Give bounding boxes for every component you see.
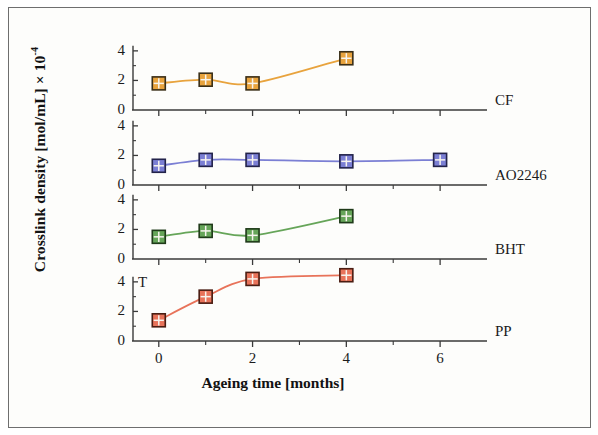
- y-tick-label: 0: [103, 251, 125, 266]
- y-axis-title-exponent: -4: [29, 47, 40, 56]
- x-tick-label: 6: [428, 351, 452, 366]
- y-tick-label: 2: [103, 303, 125, 318]
- y-tick-label: 2: [103, 147, 125, 162]
- y-axis-title-text: Crosslink density [mol/mL] × 10: [31, 56, 48, 273]
- data-point-ao2246-1: [199, 153, 212, 166]
- panel-label-ao2246: AO2246: [495, 168, 547, 183]
- x-tick-label: 2: [241, 351, 265, 366]
- y-tick-label: 4: [103, 43, 125, 58]
- data-point-bht-1: [199, 224, 212, 237]
- panel-label-bht: BHT: [495, 242, 525, 257]
- data-point-pp-0: [152, 314, 165, 327]
- data-point-ao2246-2: [246, 153, 259, 166]
- data-point-ao2246-6: [434, 153, 447, 166]
- data-point-cf-0: [152, 77, 165, 90]
- data-point-cf-4: [340, 52, 353, 65]
- data-point-ao2246-0: [152, 159, 165, 172]
- x-tick-label: 4: [334, 351, 358, 366]
- data-point-bht-2: [246, 229, 259, 242]
- plot-canvas: [0, 0, 598, 435]
- y-tick-label: 0: [103, 177, 125, 192]
- data-point-cf-2: [246, 77, 259, 90]
- panel-label-cf: CF: [495, 93, 513, 108]
- x-tick-label: 0: [147, 351, 171, 366]
- y-tick-label: 0: [103, 333, 125, 348]
- y-axis-title: Crosslink density [mol/mL] × 10-4: [29, 5, 48, 315]
- y-tick-label: 2: [103, 72, 125, 87]
- annotation-t: T: [138, 275, 147, 290]
- data-point-pp-1: [199, 290, 212, 303]
- data-point-bht-4: [340, 210, 353, 223]
- data-point-bht-0: [152, 230, 165, 243]
- panel-label-pp: PP: [495, 324, 512, 339]
- data-point-pp-4: [340, 269, 353, 282]
- data-point-ao2246-4: [340, 155, 353, 168]
- y-tick-label: 2: [103, 221, 125, 236]
- data-point-pp-2: [246, 272, 259, 285]
- x-axis-title: Ageing time [months]: [108, 374, 438, 392]
- y-tick-label: 4: [103, 118, 125, 133]
- data-point-cf-1: [199, 73, 212, 86]
- y-tick-label: 4: [103, 192, 125, 207]
- chart-figure: Crosslink density [mol/mL] × 10-4 Ageing…: [0, 0, 598, 435]
- y-tick-label: 4: [103, 274, 125, 289]
- y-tick-label: 0: [103, 102, 125, 117]
